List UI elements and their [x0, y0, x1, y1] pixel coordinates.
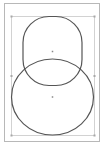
handle-top-left[interactable]	[11, 16, 13, 18]
handle-bottom-left[interactable]	[11, 135, 13, 137]
ellipse-center-marker	[52, 96, 54, 98]
rounded-rectangle-center-marker	[52, 51, 54, 53]
handle-top-right[interactable]	[94, 16, 96, 18]
handle-bottom-right[interactable]	[94, 135, 96, 137]
shape-center-markers	[52, 51, 54, 98]
handle-middle-right[interactable]	[94, 75, 96, 77]
drawing-canvas[interactable]	[0, 0, 105, 146]
handle-middle-left[interactable]	[11, 75, 13, 77]
selection-handles[interactable]	[11, 16, 96, 137]
